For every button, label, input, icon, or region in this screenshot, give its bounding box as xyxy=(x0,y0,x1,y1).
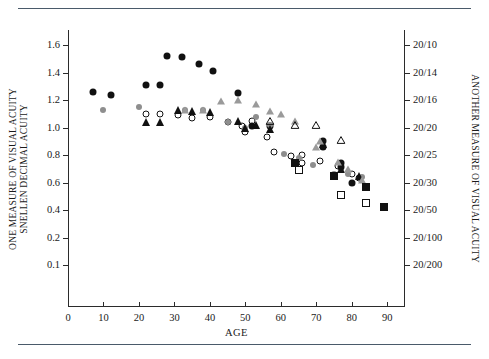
y-axis-left-line xyxy=(68,30,69,307)
data-point-open-circle xyxy=(174,112,181,119)
data-point-gray-circle xyxy=(267,122,273,128)
y-tick-label-left: 1.6 xyxy=(47,40,60,51)
y-tick-right xyxy=(405,238,410,239)
figure: ONE MEASURE OF VISUAL ACUITY SNELLEN DEC… xyxy=(0,0,489,359)
data-point-gray-triangle xyxy=(252,101,260,108)
data-point-open-circle xyxy=(355,175,362,182)
x-tick-label: 60 xyxy=(276,313,287,324)
y-tick-label-left: 1.2 xyxy=(47,95,60,106)
data-point-filled-circle xyxy=(320,138,327,145)
data-point-open-triangle xyxy=(312,121,321,129)
y-tick-right xyxy=(405,100,410,101)
y-tick-left xyxy=(63,210,68,211)
y-tick-left xyxy=(63,265,68,266)
data-point-filled-triangle xyxy=(156,118,164,126)
data-point-filled-square xyxy=(380,203,388,211)
data-point-gray-circle xyxy=(281,151,287,157)
data-point-filled-circle xyxy=(164,53,171,60)
data-point-filled-triangle xyxy=(319,140,327,148)
y-tick-label-right: 20/16 xyxy=(413,95,437,106)
x-tick-label: 90 xyxy=(382,313,393,324)
data-point-open-circle xyxy=(270,149,277,156)
plot-area: 1.61.41.21.00.80.60.40.20.1 20/1020/1420… xyxy=(68,30,405,307)
data-point-gray-circle xyxy=(225,119,231,125)
data-point-filled-circle xyxy=(89,88,96,95)
top-rule xyxy=(18,8,471,9)
data-point-gray-circle xyxy=(253,114,259,120)
y-tick-left xyxy=(63,238,68,239)
data-point-filled-square xyxy=(330,172,338,180)
y-tick-label-right: 20/25 xyxy=(413,150,437,161)
y-tick-left xyxy=(63,183,68,184)
data-point-filled-triangle xyxy=(142,118,150,126)
x-tick xyxy=(316,302,317,307)
y-tick-label-left: 1.4 xyxy=(47,67,60,78)
data-point-open-circle xyxy=(249,117,256,124)
y-tick-right xyxy=(405,265,410,266)
bottom-rule xyxy=(18,344,471,345)
data-point-gray-circle xyxy=(296,155,302,161)
x-tick xyxy=(245,302,246,307)
data-point-open-circle xyxy=(299,152,306,159)
data-point-open-circle xyxy=(206,113,213,120)
data-point-filled-circle xyxy=(157,81,164,88)
y-axis-title-left-line2: SNELLEN DECIMAL ACUITY xyxy=(19,88,30,250)
y-tick-label-right: 20/200 xyxy=(413,260,442,271)
data-point-filled-square xyxy=(362,183,370,191)
data-point-gray-triangle xyxy=(312,143,320,150)
x-axis-title: AGE xyxy=(68,327,405,338)
y-tick-label-right: 20/50 xyxy=(413,205,437,216)
y-tick-label-left: 0.2 xyxy=(47,232,60,243)
data-point-open-triangle xyxy=(337,136,346,144)
data-point-filled-circle xyxy=(178,54,185,61)
data-point-filled-circle xyxy=(143,81,150,88)
y-tick-right xyxy=(405,73,410,74)
data-point-open-circle xyxy=(189,114,196,121)
data-point-gray-triangle xyxy=(181,106,189,113)
y-tick-left xyxy=(63,155,68,156)
x-tick xyxy=(68,302,69,307)
data-point-gray-triangle xyxy=(234,97,242,104)
y-tick-left xyxy=(63,100,68,101)
y-tick-right xyxy=(405,128,410,129)
data-point-filled-triangle xyxy=(337,165,345,173)
x-axis-line xyxy=(68,306,405,307)
data-point-gray-circle xyxy=(310,162,316,168)
data-point-filled-triangle xyxy=(241,124,249,132)
x-tick-label: 70 xyxy=(311,313,322,324)
data-point-gray-circle xyxy=(359,174,365,180)
y-tick-right xyxy=(405,210,410,211)
data-point-open-square xyxy=(362,199,370,207)
y-tick-label-left: 1.0 xyxy=(47,122,60,133)
y-tick-label-right: 20/20 xyxy=(413,122,437,133)
data-point-open-triangle xyxy=(266,117,275,125)
y-tick-label-left: 0.1 xyxy=(47,260,60,271)
data-point-gray-triangle xyxy=(358,176,366,183)
data-point-open-circle xyxy=(263,134,270,141)
data-point-open-circle xyxy=(299,160,306,167)
x-tick xyxy=(352,302,353,307)
data-point-filled-triangle xyxy=(188,107,196,115)
data-point-open-circle xyxy=(238,123,245,130)
data-point-filled-circle xyxy=(267,123,274,130)
x-tick xyxy=(387,302,388,307)
data-point-gray-circle xyxy=(200,107,206,113)
y-axis-title-right: ANOTHER MEASURE OF VISUAL ACUITY xyxy=(461,30,487,307)
data-point-gray-circle xyxy=(182,107,188,113)
x-tick-label: 50 xyxy=(240,313,251,324)
y-tick-label-right: 20/14 xyxy=(413,67,437,78)
data-point-gray-triangle xyxy=(199,106,207,113)
x-tick-label: 40 xyxy=(205,313,216,324)
data-point-open-circle xyxy=(143,110,150,117)
y-tick-right xyxy=(405,155,410,156)
data-point-open-circle xyxy=(157,110,164,117)
data-point-filled-circle xyxy=(107,91,114,98)
data-point-filled-circle xyxy=(348,179,355,186)
y-tick-label-left: 0.4 xyxy=(47,205,60,216)
data-point-filled-circle xyxy=(210,68,217,75)
data-point-filled-triangle xyxy=(355,172,363,180)
y-tick-right xyxy=(405,45,410,46)
data-point-gray-circle xyxy=(345,171,351,177)
data-point-gray-triangle xyxy=(291,117,299,124)
data-point-open-circle xyxy=(288,153,295,160)
